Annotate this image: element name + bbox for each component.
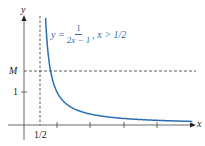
formula-lhs: y = <box>51 29 65 40</box>
formula-condition: , x > 1/2 <box>92 29 126 40</box>
y-tick-label-1: 1 <box>13 87 18 97</box>
chart-canvas <box>0 0 205 146</box>
x-tick-label-half: 1/2 <box>34 130 47 140</box>
y-axis-arrow-icon <box>22 15 27 21</box>
formula-fraction: 1 2x − 1 <box>67 24 91 45</box>
formula-label: y = 1 2x − 1 , x > 1/2 <box>51 24 126 45</box>
x-axis-label: x <box>197 119 201 129</box>
formula-numerator: 1 <box>75 24 82 35</box>
x-axis-arrow-icon <box>190 123 196 128</box>
M-label: M <box>9 66 17 76</box>
y-axis-label: y <box>21 5 25 15</box>
formula-denominator: 2x − 1 <box>67 35 91 45</box>
